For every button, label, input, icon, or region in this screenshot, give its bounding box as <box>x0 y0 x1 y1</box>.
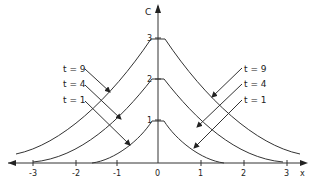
x-axis-left-arrow-icon <box>8 160 16 166</box>
x-tick-label: 3 <box>284 169 289 178</box>
x-axis-label: x <box>300 169 305 178</box>
label-left-t9: t = 9 <box>63 64 86 74</box>
diffusion-chart: -3 -2 -1 0 1 2 3 x 1 2 3 C t = 9 t = 4 t… <box>0 0 315 182</box>
y-axis-arrow-icon <box>155 4 161 13</box>
x-tick-label: 1 <box>198 169 203 178</box>
label-right-t4: t = 4 <box>244 79 267 89</box>
label-left-t1: t = 1 <box>63 95 86 105</box>
y-axis <box>155 4 161 163</box>
x-tick-label: -2 <box>72 169 80 178</box>
y-axis-label: C <box>145 7 151 17</box>
x-tick-label: 2 <box>241 169 246 178</box>
label-left-t4: t = 4 <box>63 79 86 89</box>
label-right-t9: t = 9 <box>244 64 267 74</box>
y-tick-label: 1 <box>147 116 152 125</box>
leader-lines <box>85 68 242 148</box>
x-tick-label: -3 <box>29 169 37 178</box>
x-axis-right-arrow-icon <box>300 160 308 166</box>
x-tick-label: 0 <box>155 169 160 178</box>
label-right-t1: t = 1 <box>244 95 267 105</box>
x-tick-label: -1 <box>113 169 121 178</box>
